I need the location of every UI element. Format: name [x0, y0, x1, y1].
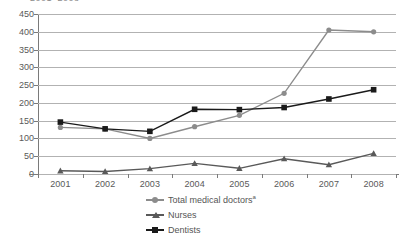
chart-legend: Total medical doctorsaNursesDentists — [146, 193, 256, 236]
y-axis-tick-label: 450 — [4, 9, 34, 19]
square-marker-icon — [147, 129, 153, 135]
square-marker-icon — [58, 119, 64, 125]
square-marker-icon — [326, 96, 332, 102]
x-axis-tick-mark — [396, 174, 397, 178]
x-axis-tick-label: 2006 — [274, 179, 294, 189]
legend-item[interactable]: Total medical doctorsa — [146, 193, 256, 206]
circle-marker-icon — [326, 27, 331, 32]
square-marker-icon — [371, 87, 377, 93]
y-axis-tick-label: 300 — [4, 62, 34, 72]
legend-item[interactable]: Dentists — [146, 223, 256, 236]
triangle-marker-icon — [146, 210, 164, 220]
x-axis-ticks: 20012002200320042005200620072008 — [38, 174, 396, 194]
circle-marker-icon — [147, 136, 152, 141]
square-marker-icon — [102, 126, 108, 132]
x-axis-tick-mark — [38, 174, 39, 178]
series-line — [60, 153, 373, 171]
y-axis-ticks: 050100150200250300350400450 — [0, 14, 34, 174]
series-line — [60, 30, 373, 138]
line-chart: 2001–2008 050100150200250300350400450 20… — [0, 0, 406, 238]
triangle-marker-icon — [370, 150, 376, 156]
x-axis-tick-label: 2008 — [364, 179, 384, 189]
x-axis-tick-label: 2002 — [95, 179, 115, 189]
square-marker-icon — [146, 225, 164, 235]
x-axis-tick-label: 2001 — [50, 179, 70, 189]
x-axis-tick-label: 2007 — [319, 179, 339, 189]
x-axis-tick-label: 2003 — [140, 179, 160, 189]
circle-marker-icon — [58, 125, 63, 130]
circle-marker-icon — [282, 91, 287, 96]
legend-item-label: Total medical doctorsa — [168, 194, 256, 205]
x-axis-tick-label: 2005 — [229, 179, 249, 189]
plot-area — [38, 14, 396, 174]
chart-title: 2001–2008 — [30, 0, 80, 3]
circle-marker-icon — [146, 195, 164, 205]
y-axis-tick-label: 350 — [4, 45, 34, 55]
legend-item-label: Nurses — [168, 210, 197, 220]
y-axis-tick-label: 100 — [4, 133, 34, 143]
x-axis-tick-label: 2004 — [185, 179, 205, 189]
square-marker-icon — [281, 105, 287, 111]
circle-marker-icon — [371, 29, 376, 34]
circle-marker-icon — [192, 124, 197, 129]
legend-item-label: Dentists — [168, 225, 201, 235]
x-axis-tick-mark — [128, 174, 129, 178]
y-axis-tick-label: 150 — [4, 116, 34, 126]
x-axis-tick-mark — [83, 174, 84, 178]
y-axis-tick-label: 250 — [4, 80, 34, 90]
y-axis-tick-label: 200 — [4, 98, 34, 108]
y-axis-tick-label: 50 — [4, 151, 34, 161]
series-layer — [38, 14, 396, 174]
x-axis-tick-mark — [217, 174, 218, 178]
legend-item[interactable]: Nurses — [146, 208, 256, 221]
x-axis-tick-mark — [307, 174, 308, 178]
square-marker-icon — [237, 107, 243, 113]
x-axis-tick-mark — [351, 174, 352, 178]
y-axis-tick-label: 400 — [4, 27, 34, 37]
x-axis-tick-mark — [172, 174, 173, 178]
square-marker-icon — [192, 106, 198, 112]
x-axis-tick-mark — [262, 174, 263, 178]
series-line — [60, 90, 373, 132]
circle-marker-icon — [237, 113, 242, 118]
